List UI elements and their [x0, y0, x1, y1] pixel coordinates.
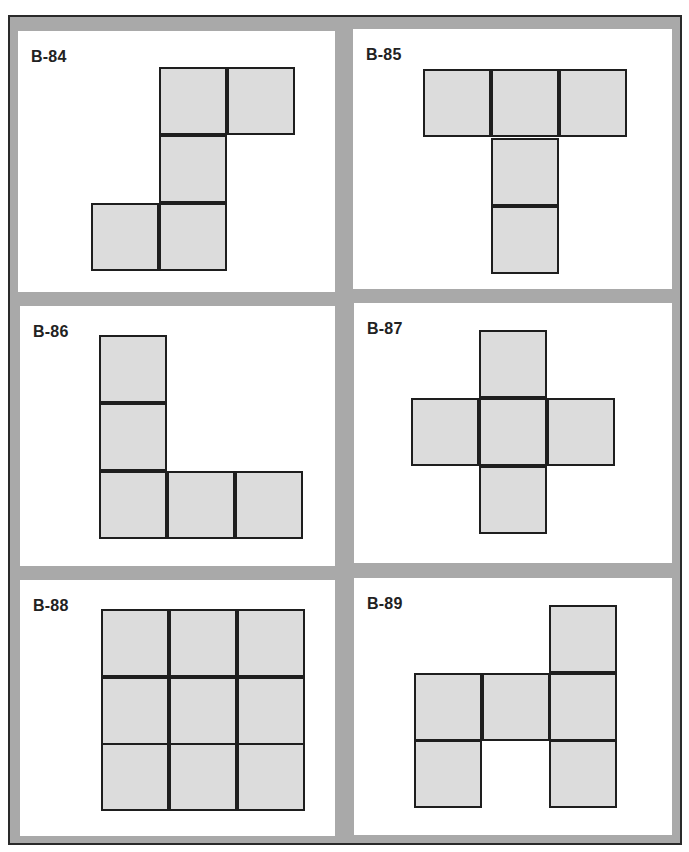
net-square: [491, 69, 559, 137]
net-square: [91, 203, 159, 271]
net-square: [559, 69, 627, 137]
net-square: [101, 609, 169, 677]
net-square: [423, 69, 491, 137]
net-square: [159, 135, 227, 203]
net-square: [414, 673, 482, 741]
net-square: [99, 403, 167, 471]
net-square: [169, 677, 237, 745]
net-square: [99, 471, 167, 539]
net-square: [237, 677, 305, 745]
panel-label: B-85: [366, 46, 401, 64]
net-square: [237, 743, 305, 811]
net-square: [479, 398, 547, 466]
panel-label: B-87: [367, 320, 402, 338]
panel-label: B-84: [31, 48, 66, 66]
net-square: [169, 609, 237, 677]
net-square: [549, 740, 617, 808]
net-square: [482, 673, 550, 741]
net-square: [99, 335, 167, 403]
panel-label: B-86: [33, 323, 68, 341]
net-square: [227, 67, 295, 135]
net-square: [159, 67, 227, 135]
panel-label: B-89: [367, 595, 402, 613]
net-square: [479, 330, 547, 398]
net-square: [159, 203, 227, 271]
net-square: [411, 398, 479, 466]
net-square: [549, 605, 617, 673]
net-square: [237, 609, 305, 677]
net-square: [547, 398, 615, 466]
panel-label: B-88: [33, 597, 68, 615]
net-square: [101, 677, 169, 745]
net-square: [169, 743, 237, 811]
net-square: [479, 466, 547, 534]
net-square: [491, 206, 559, 274]
net-square: [167, 471, 235, 539]
net-square: [235, 471, 303, 539]
net-square: [491, 138, 559, 206]
net-square: [549, 673, 617, 741]
net-square: [414, 740, 482, 808]
net-square: [101, 743, 169, 811]
